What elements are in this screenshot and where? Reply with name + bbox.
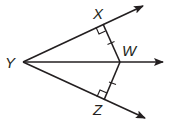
label-W: W: [122, 42, 138, 59]
label-Z: Z: [92, 101, 103, 118]
label-X: X: [92, 5, 104, 22]
label-Y: Y: [5, 54, 16, 71]
diagram-canvas: X W Y Z: [0, 0, 170, 124]
segment-ZW: [104, 62, 120, 100]
angle-bisector-diagram: X W Y Z: [0, 0, 170, 124]
ray-YZ: [23, 62, 145, 118]
